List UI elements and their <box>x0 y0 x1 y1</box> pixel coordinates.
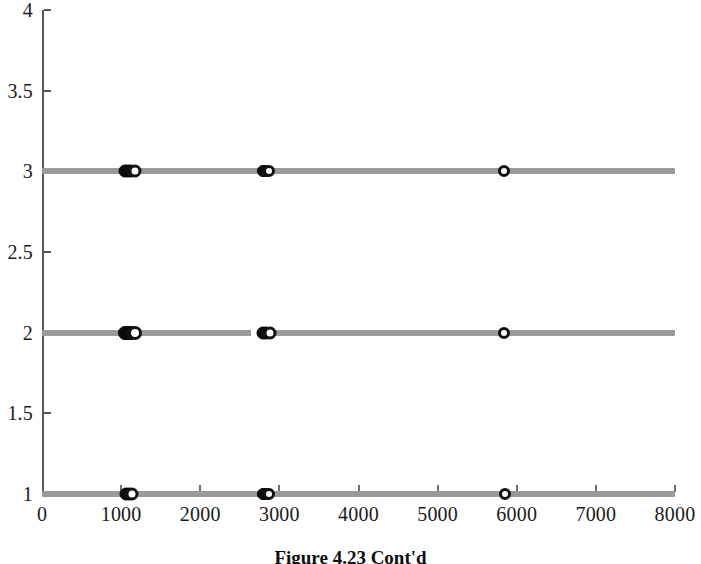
data-point-marker <box>263 488 275 500</box>
data-point-marker <box>499 488 511 500</box>
y-tick-label: 4 <box>23 0 42 22</box>
y-tick-label: 1.5 <box>7 402 42 425</box>
x-tick-label: 8000 <box>655 494 696 526</box>
data-point-marker <box>126 488 139 501</box>
x-tick-label: 5000 <box>417 494 458 526</box>
x-tick-label: 2000 <box>180 494 221 526</box>
plot-area: 11.522.533.54 01000200030004000500060007… <box>42 10 675 494</box>
y-tick-label: 2.5 <box>7 241 42 264</box>
figure-caption: Figure 4.23 Cont'd <box>0 547 701 564</box>
series-level-1 <box>42 10 675 494</box>
figure-root: 11.522.533.54 01000200030004000500060007… <box>0 0 701 564</box>
y-tick-label: 3 <box>23 160 42 183</box>
x-tick-label: 7000 <box>575 494 616 526</box>
x-tick-label: 0 <box>37 494 47 526</box>
y-tick-label: 2 <box>23 321 42 344</box>
y-tick-label: 3.5 <box>7 79 42 102</box>
x-tick-label: 4000 <box>338 494 379 526</box>
